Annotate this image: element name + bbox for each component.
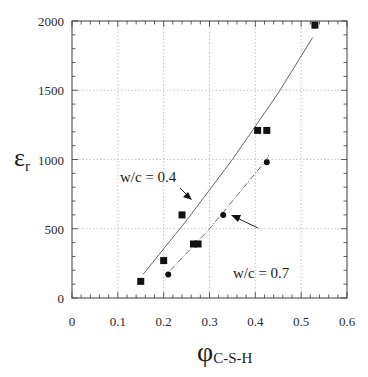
x-tick-labels: 00.10.20.30.40.50.6 bbox=[69, 314, 356, 329]
y-tick-label: 500 bbox=[45, 222, 65, 237]
x-tick-label: 0.1 bbox=[110, 314, 126, 329]
annotation-wc-07: w/c = 0.7 bbox=[233, 265, 290, 281]
square-marker bbox=[137, 278, 144, 285]
x-tick-label: 0.6 bbox=[339, 314, 356, 329]
circle-marker bbox=[264, 159, 270, 165]
annotation-wc-04: w/c = 0.4 bbox=[120, 169, 177, 185]
fit-line-0 bbox=[143, 38, 313, 275]
x-tick-label: 0.3 bbox=[201, 314, 217, 329]
y-tick-label: 1000 bbox=[38, 153, 64, 168]
y-axis-label: εr bbox=[14, 143, 30, 174]
x-axis-label-main: φ bbox=[197, 336, 213, 367]
y-tick-label: 1500 bbox=[38, 83, 64, 98]
square-marker bbox=[160, 257, 167, 264]
grid-lines bbox=[72, 21, 347, 298]
scatter-chart: 00.10.20.30.40.50.6 0500100015002000 w/c… bbox=[0, 0, 368, 377]
square-marker bbox=[254, 127, 261, 134]
square-marker bbox=[311, 22, 318, 29]
y-tick-label: 0 bbox=[58, 291, 65, 306]
x-tick-label: 0.2 bbox=[156, 314, 172, 329]
data-points bbox=[137, 22, 318, 285]
y-tick-labels: 0500100015002000 bbox=[38, 14, 64, 306]
circle-marker bbox=[220, 212, 226, 218]
circle-marker bbox=[165, 271, 171, 277]
x-tick-label: 0.4 bbox=[247, 314, 264, 329]
square-marker bbox=[195, 240, 202, 247]
x-axis-label-sub: C-S-H bbox=[213, 350, 252, 366]
square-marker bbox=[263, 127, 270, 134]
x-tick-label: 0 bbox=[69, 314, 76, 329]
x-axis-label: φC-S-H bbox=[197, 336, 253, 367]
arrow-icon bbox=[231, 215, 258, 228]
y-tick-label: 2000 bbox=[38, 14, 64, 29]
y-axis-label-main: ε bbox=[14, 143, 25, 172]
fit-lines bbox=[143, 38, 313, 275]
x-tick-label: 0.5 bbox=[293, 314, 309, 329]
square-marker bbox=[179, 211, 186, 218]
arrow-icon bbox=[180, 188, 192, 200]
y-axis-label-sub: r bbox=[25, 158, 30, 174]
